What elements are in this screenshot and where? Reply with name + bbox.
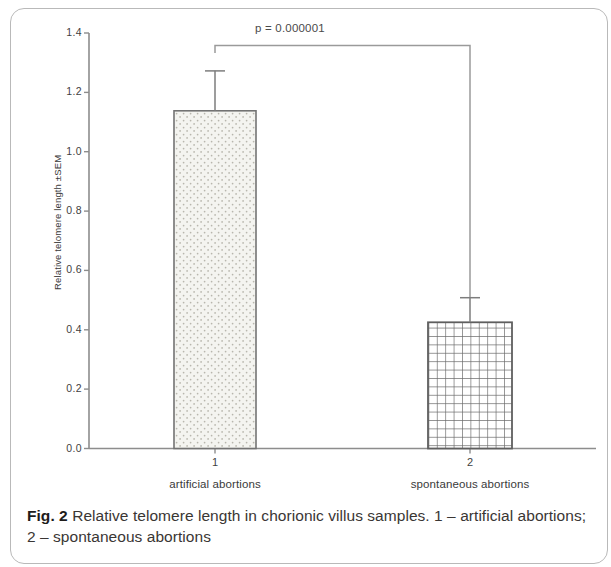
x-tick-number: 2: [370, 457, 570, 468]
y-tick-label: 0.2: [48, 382, 82, 394]
y-tick-label: 0.0: [48, 442, 82, 454]
error-bar-artificial-abortions: [205, 71, 225, 111]
bar-artificial-abortions[interactable]: [174, 111, 256, 449]
x-axis-group-artificial: 1 artificial abortions: [115, 457, 315, 491]
y-tick-label: 1.0: [48, 145, 82, 157]
x-category-label: spontaneous abortions: [370, 479, 570, 491]
y-tick-label: 0.4: [48, 323, 82, 335]
figure-caption-label: Fig. 2: [27, 507, 68, 524]
x-category-label: artificial abortions: [115, 479, 315, 491]
y-axis-tick-labels: 1.4 1.2 1.0 0.8 0.6 0.4 0.2 0.0: [46, 0, 82, 495]
error-bar-spontaneous-abortions: [460, 298, 480, 323]
y-tick-label: 0.6: [48, 263, 82, 275]
bar-chart-svg: [0, 0, 611, 495]
figure-caption: Fig. 2 Relative telomere length in chori…: [27, 505, 587, 548]
figure-caption-text: Relative telomere length in chorionic vi…: [27, 507, 586, 545]
y-tick-label: 0.8: [48, 204, 82, 216]
bar-spontaneous-abortions[interactable]: [428, 322, 512, 448]
p-value-annotation: p = 0.000001: [255, 22, 325, 34]
chart-plot-area: Relative telomere length ±SEM 1.4 1.2 1.…: [0, 0, 611, 495]
y-tick-label: 1.2: [48, 85, 82, 97]
x-axis-group-spontaneous: 2 spontaneous abortions: [370, 457, 570, 491]
y-tick-label: 1.4: [48, 26, 82, 38]
x-tick-number: 1: [115, 457, 315, 468]
